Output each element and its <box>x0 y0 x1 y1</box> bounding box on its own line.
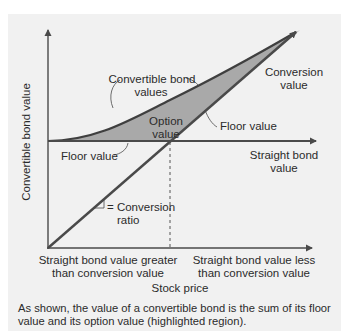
region-right-label: Straight bond value less than conversion… <box>186 254 322 280</box>
label-line: Straight bond value less <box>186 254 322 267</box>
label-line: value <box>258 79 330 92</box>
straight-bond-value-label: Straight bond value <box>248 149 320 175</box>
label-line: value <box>136 128 196 141</box>
x-axis-label: Stock price <box>140 282 220 295</box>
label-line: Straight bond <box>248 149 320 162</box>
label-line: ratio <box>107 214 175 227</box>
option-value-label: Option value <box>136 115 196 141</box>
label-line: Convertible bond <box>97 73 207 86</box>
label-line: value <box>248 162 320 175</box>
label-line: values <box>95 86 207 99</box>
label-line: = Conversion <box>107 201 175 214</box>
y-axis-label: Convertible bond value <box>20 83 32 201</box>
label-line: than conversion value <box>38 267 178 280</box>
label-line: Straight bond value greater <box>38 254 178 267</box>
label-line: Option <box>136 115 196 128</box>
region-left-label: Straight bond value greater than convers… <box>38 254 178 280</box>
label-line: Conversion <box>258 66 330 79</box>
label-line: than conversion value <box>186 267 322 280</box>
figure-caption: As shown, the value of a convertible bon… <box>18 302 338 328</box>
conversion-ratio-label: = Conversion ratio <box>107 201 175 227</box>
conversion-value-label: Conversion value <box>258 66 330 92</box>
floor-value-label-left: Floor value <box>61 150 118 163</box>
floor-value-label-right: Floor value <box>220 120 277 133</box>
leader-floor-right <box>205 110 217 127</box>
convertible-bond-values-label: Convertible bond values <box>97 73 207 99</box>
